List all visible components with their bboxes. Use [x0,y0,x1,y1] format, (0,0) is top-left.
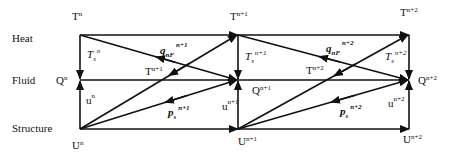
node-Q-n: Qn [56,74,68,86]
node-T-n+2: Tn+2 [400,6,418,18]
block1-diagonals [80,35,237,129]
node-U-n+2: Un+2 [403,133,422,145]
row-label-structure: Structure [12,122,52,134]
label-ps-n+1: psn+1 [167,104,190,121]
node-Q-n+2: Qn+2 [418,74,437,86]
node-U-n+1: Un+1 [238,135,257,147]
row-label-heat: Heat [12,32,33,44]
label-u-n+1: un+1 [222,98,239,112]
label-Ts-n+2: Tsn+2 [385,49,407,65]
node-U-n: Un [72,139,84,151]
label-Ts-n: Tsn [87,47,101,63]
label-ps-n+2: psn+2 [339,103,362,120]
label-q-nF-n+2: qnFn+2 [326,39,354,57]
row-label-fluid: Fluid [12,74,36,86]
label-q-nF-n+1: qnFn+1 [160,41,187,59]
label-Ts-n+1: Tsn+1 [245,49,267,65]
node-T-n: Tn [72,10,83,22]
label-T-n+2: Tn+2 [306,64,324,76]
node-Q-n+1: Qn+1 [252,84,271,96]
coupling-diagram: Heat Fluid Structure [0,0,453,156]
node-T-n+1: Tn+1 [230,10,248,22]
label-u-n+2: un+2 [388,95,405,109]
label-T-n+1: Tn+1 [145,65,163,77]
label-u-n: un [86,92,96,106]
